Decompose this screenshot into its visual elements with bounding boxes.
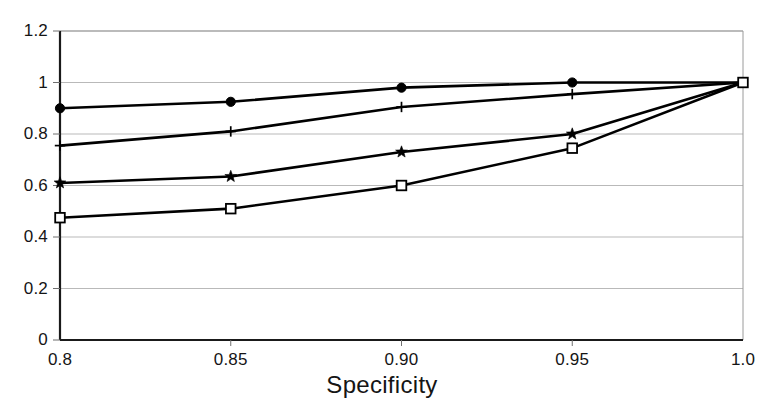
- x-tick-label: 1.0: [703, 350, 764, 370]
- gridlines: [60, 31, 743, 289]
- x-tick-label: 0.95: [532, 350, 612, 370]
- y-tick-label: 0.8: [0, 124, 48, 144]
- x-tick-label: 0.85: [191, 350, 271, 370]
- data-point-marker: [567, 143, 577, 153]
- data-point-marker: [226, 204, 236, 214]
- y-tick-label: 1.2: [0, 21, 48, 41]
- series-series-3: [54, 83, 743, 188]
- series-line: [60, 83, 743, 183]
- data-point-marker: [397, 181, 407, 191]
- roc-line-chart: 00.20.40.60.811.2 0.80.850.900.951.0 Spe…: [0, 0, 764, 414]
- data-point-marker: [396, 146, 408, 157]
- y-tick-label: 0: [0, 330, 48, 350]
- y-tick-label: 0.6: [0, 176, 48, 196]
- x-tick-label: 0.8: [20, 350, 100, 370]
- y-tick-label: 0.4: [0, 227, 48, 247]
- y-tick-label: 0.2: [0, 279, 48, 299]
- data-point-marker: [55, 104, 64, 113]
- x-tick-label: 0.90: [362, 350, 442, 370]
- data-point-marker: [55, 213, 65, 223]
- series-series-2: [55, 83, 743, 151]
- x-axis-title: Specificity: [0, 371, 764, 399]
- y-tick-label: 1: [0, 73, 48, 93]
- data-series-layer: [54, 78, 748, 223]
- data-point-marker: [566, 128, 578, 139]
- data-point-marker: [226, 97, 235, 106]
- data-point-marker: [225, 170, 237, 181]
- data-point-marker: [738, 78, 748, 88]
- data-point-marker: [397, 83, 406, 92]
- data-point-marker: [568, 78, 577, 87]
